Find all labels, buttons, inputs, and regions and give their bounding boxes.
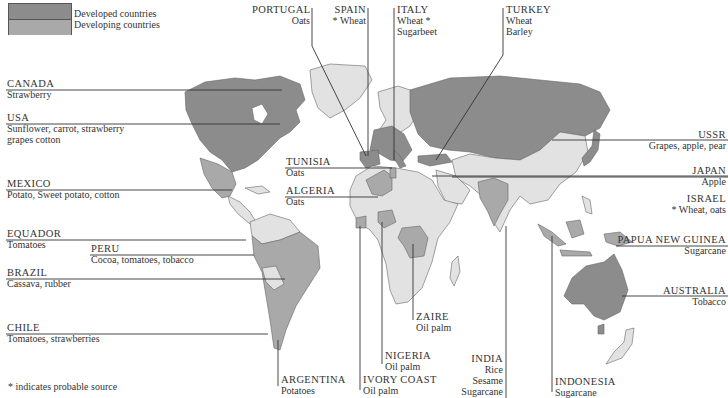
footnote: * indicates probable source: [8, 381, 117, 392]
crop-text: Cassava, rubber: [7, 278, 71, 289]
greenland: [310, 64, 372, 118]
legend-text: Developed countries Developing countries: [74, 8, 160, 30]
legend-label-developed: Developed countries: [74, 8, 160, 19]
label-italy: ITALY Wheat * Sugarbeet: [397, 4, 437, 37]
label-usa: USA Sunflower, carrot, strawberry grapes…: [7, 112, 124, 145]
ivory-coast: [356, 216, 366, 228]
iberia: [360, 150, 380, 168]
australia: [564, 254, 628, 320]
caribbean: [245, 186, 270, 194]
crop-text: Sunflower, carrot, strawberry: [7, 123, 124, 134]
crop-text: Sugarcane: [555, 387, 616, 398]
label-peru: PERU Cocoa, tomatoes, tobacco: [91, 243, 194, 265]
country-name: PORTUGAL: [252, 4, 310, 15]
label-india: INDIA Rice Sesame Sugarcane: [448, 353, 503, 397]
country-name: CANADA: [7, 78, 54, 89]
country-name: ZAIRE: [416, 311, 451, 322]
label-chile: CHILE Tomatoes, strawberries: [7, 322, 100, 344]
legend-swatch-developing: [9, 20, 71, 35]
country-name: BRAZIL: [7, 267, 71, 278]
label-zaire: ZAIRE Oil palm: [416, 311, 451, 333]
crop-text: * Wheat, oats: [671, 204, 726, 215]
legend-swatches: [8, 3, 72, 35]
crop-text: Oil palm: [363, 385, 437, 396]
country-name: AUSTRALIA: [663, 285, 726, 296]
crop-text: Apple: [692, 176, 726, 187]
crop-text: Rice: [448, 364, 503, 375]
crop-text: Oats: [286, 196, 335, 207]
tasmania: [598, 324, 604, 334]
label-tunisia: TUNISIA Oats: [286, 156, 331, 178]
legend-label-developing: Developing countries: [74, 19, 160, 30]
crop-text: Tobacco: [663, 296, 726, 307]
crop-text: Sugarcane: [448, 386, 503, 397]
label-argentina: ARGENTINA Potatoes: [281, 374, 346, 396]
country-name: ITALY: [397, 4, 437, 15]
country-name: IVORY COAST: [363, 374, 437, 385]
crop-text: Sugarbeet: [397, 26, 437, 37]
label-mexico: MEXICO Potato, Sweet potato, cotton: [7, 178, 120, 200]
label-canada: CANADA Strawberry: [7, 78, 54, 100]
crop-text: Wheat: [506, 15, 551, 26]
label-nigeria: NIGERIA Oil palm: [385, 350, 431, 372]
turkey: [418, 154, 452, 166]
label-papua-new-guinea: PAPUA NEW GUINEA Sugarcane: [618, 234, 727, 256]
label-equador: EQUADOR Tomatoes: [7, 228, 61, 250]
crop-text: Sugarcane: [618, 245, 727, 256]
tunisia: [390, 168, 396, 178]
country-name: INDONESIA: [555, 376, 616, 387]
country-name: USA: [7, 112, 124, 123]
borneo: [566, 220, 584, 238]
country-name: SPAIN: [320, 4, 366, 15]
crop-text: Grapes, apple, pear: [649, 140, 726, 151]
country-name: EQUADOR: [7, 228, 61, 239]
crop-text: Oil palm: [416, 322, 451, 333]
crop-text: Cocoa, tomatoes, tobacco: [91, 254, 194, 265]
country-name: JAPAN: [692, 165, 726, 176]
country-name: TURKEY: [506, 4, 551, 15]
central-america: [228, 196, 256, 224]
crop-text: Tomatoes: [7, 239, 61, 250]
label-spain: SPAIN * Wheat: [320, 4, 366, 26]
crop-text: Sesame: [448, 375, 503, 386]
legend-swatch-developed: [9, 4, 71, 20]
crop-text: Oil palm: [385, 361, 431, 372]
label-australia: AUSTRALIA Tobacco: [663, 285, 726, 307]
country-name: USSR: [649, 129, 726, 140]
label-indonesia: INDONESIA Sugarcane: [555, 376, 616, 398]
crop-text: Wheat *: [397, 15, 437, 26]
label-ussr: USSR Grapes, apple, pear: [649, 129, 726, 151]
new-zealand: [606, 328, 634, 364]
country-name: MEXICO: [7, 178, 120, 189]
philippines: [582, 196, 592, 214]
south-america: [252, 232, 320, 350]
crop-text: Tomatoes, strawberries: [7, 333, 100, 344]
indonesia-islands: [560, 250, 592, 256]
label-israel: ISRAEL * Wheat, oats: [671, 193, 726, 215]
crop-text: grapes cotton: [7, 134, 124, 145]
crop-text: Potatoes: [281, 385, 346, 396]
label-algeria: ALGERIA Oats: [286, 185, 335, 207]
label-turkey: TURKEY Wheat Barley: [506, 4, 551, 37]
crop-text: Oats: [286, 167, 331, 178]
label-ivory-coast: IVORY COAST Oil palm: [363, 374, 437, 396]
country-name: CHILE: [7, 322, 100, 333]
country-name: PAPUA NEW GUINEA: [618, 234, 727, 245]
country-name: PERU: [91, 243, 194, 254]
label-portugal: PORTUGAL Oats: [252, 4, 310, 26]
country-name: ARGENTINA: [281, 374, 346, 385]
country-name: NIGERIA: [385, 350, 431, 361]
label-brazil: BRAZIL Cassava, rubber: [7, 267, 71, 289]
label-japan: JAPAN Apple: [692, 165, 726, 187]
madagascar: [450, 256, 460, 286]
crop-text: Oats: [252, 15, 310, 26]
country-name: TUNISIA: [286, 156, 331, 167]
crop-text: * Wheat: [320, 15, 366, 26]
country-name: ALGERIA: [286, 185, 335, 196]
crop-text: Barley: [506, 26, 551, 37]
country-name: ISRAEL: [671, 193, 726, 204]
country-name: INDIA: [448, 353, 503, 364]
crop-text: Strawberry: [7, 89, 54, 100]
crop-text: Potato, Sweet potato, cotton: [7, 189, 120, 200]
